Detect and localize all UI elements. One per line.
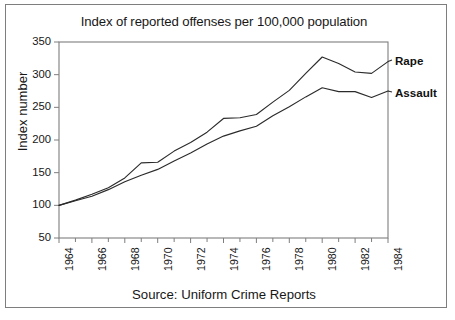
y-tick-label: 350 <box>21 35 51 47</box>
x-tick-label: 1970 <box>162 247 174 271</box>
x-tick-label: 1984 <box>392 247 404 271</box>
y-tick-label: 150 <box>21 166 51 178</box>
x-tick-label: 1972 <box>195 247 207 271</box>
x-tick-label: 1966 <box>96 247 108 271</box>
line-chart-plot <box>0 0 455 320</box>
y-tick-label: 300 <box>21 68 51 80</box>
x-tick-label: 1980 <box>326 247 338 271</box>
series-label-rape: Rape <box>395 54 423 67</box>
x-tick-label: 1976 <box>260 247 272 271</box>
x-tick-label: 1982 <box>359 247 371 271</box>
legend-leader-lines <box>388 60 392 92</box>
x-tick-label: 1968 <box>129 247 141 271</box>
figure-container: Index of reported offenses per 100,000 p… <box>0 0 455 320</box>
axis-ticks <box>54 42 388 243</box>
y-tick-label: 100 <box>21 198 51 210</box>
y-tick-label: 250 <box>21 100 51 112</box>
series-label-assault: Assault <box>395 86 437 99</box>
plot-frame <box>59 42 388 238</box>
data-series-lines <box>59 57 388 205</box>
x-tick-label: 1974 <box>228 247 240 271</box>
y-tick-label: 50 <box>21 231 51 243</box>
x-tick-label: 1964 <box>63 247 75 271</box>
x-tick-label: 1978 <box>293 247 305 271</box>
y-tick-label: 200 <box>21 133 51 145</box>
source-caption: Source: Uniform Crime Reports <box>59 287 389 302</box>
